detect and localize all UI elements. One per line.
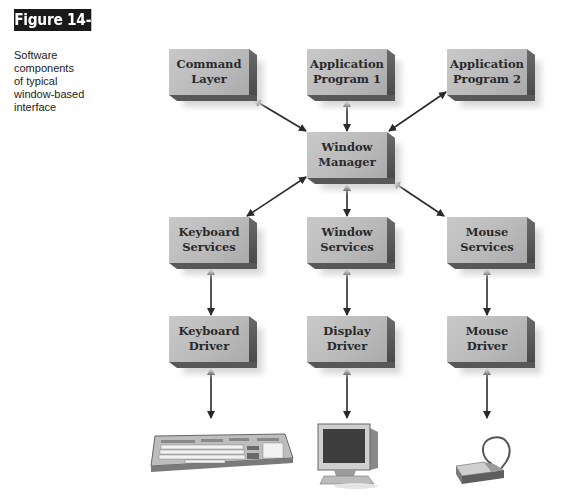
node-label: Display Driver: [307, 316, 387, 362]
node-label: Keyboard Driver: [169, 316, 249, 362]
monitor-icon: [316, 418, 386, 490]
keyboard-icon: [145, 430, 295, 475]
node-keyboard-driver: Keyboard Driver: [169, 316, 249, 362]
mouse-icon: [448, 432, 528, 487]
arrow-window-manager-keyboard-services: [247, 177, 306, 216]
node-label: Application Program 2: [447, 49, 527, 95]
node-keyboard-services: Keyboard Services: [169, 217, 249, 263]
node-application-program-1: Application Program 1: [307, 49, 387, 95]
node-mouse-services: Mouse Services: [447, 217, 527, 263]
node-label: Mouse Services: [447, 217, 527, 263]
node-label: Window Services: [307, 217, 387, 263]
node-label: Application Program 1: [307, 49, 387, 95]
node-mouse-driver: Mouse Driver: [447, 316, 527, 362]
node-label: Window Manager: [307, 132, 387, 178]
node-window-manager: Window Manager: [307, 132, 387, 178]
node-label: Command Layer: [169, 49, 249, 95]
node-label: Mouse Driver: [447, 316, 527, 362]
node-command-layer: Command Layer: [169, 49, 249, 95]
node-window-services: Window Services: [307, 217, 387, 263]
node-label: Keyboard Services: [169, 217, 249, 263]
node-display-driver: Display Driver: [307, 316, 387, 362]
node-application-program-2: Application Program 2: [447, 49, 527, 95]
